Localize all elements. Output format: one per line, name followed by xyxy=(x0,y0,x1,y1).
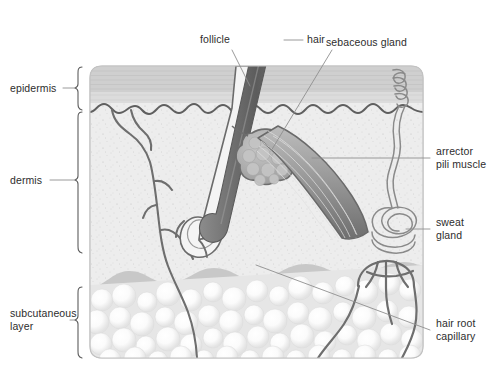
label-follicle: follicle xyxy=(200,33,230,46)
skin-cross-section-figure: epidermis dermis subcutaneous layer foll… xyxy=(0,0,504,379)
label-hair: hair xyxy=(307,33,325,46)
label-epidermis: epidermis xyxy=(10,82,56,95)
label-sebaceous-gland: sebaceous gland xyxy=(326,36,407,49)
bracket-epidermis xyxy=(75,67,82,110)
label-dermis: dermis xyxy=(10,174,42,187)
label-arrector-pili-muscle: arrector pili muscle xyxy=(436,145,486,170)
label-hair-root-capillary: hair root capillary xyxy=(436,317,475,342)
label-sweat-gland: sweat gland xyxy=(436,216,464,241)
label-subcutaneous-layer: subcutaneous layer xyxy=(10,307,77,332)
bracket-dermis xyxy=(75,112,82,253)
